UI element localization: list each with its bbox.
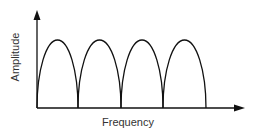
axes — [34, 10, 246, 112]
lobe-curve — [121, 40, 163, 108]
y-axis-label: Amplitude — [9, 33, 21, 82]
lobe-curve — [163, 40, 206, 108]
lobe-curve — [37, 40, 78, 108]
x-axis-label: Frequency — [0, 116, 256, 128]
lobes — [37, 40, 206, 108]
lobe-curve — [78, 40, 121, 108]
x-axis-arrow-icon — [234, 105, 245, 112]
y-axis-arrow-icon — [34, 10, 41, 20]
